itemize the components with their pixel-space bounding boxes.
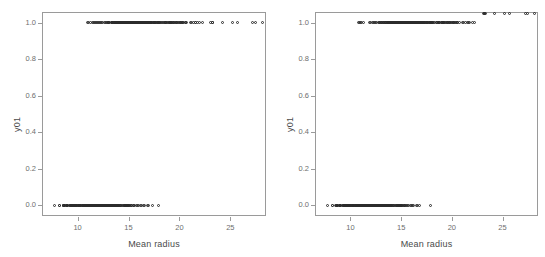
- y-tick-label: 0.0: [8, 200, 36, 209]
- x-tick-label: 20: [165, 223, 193, 232]
- data-point: [331, 204, 334, 207]
- data-point: [326, 204, 329, 207]
- data-point: [185, 21, 188, 24]
- data-point: [151, 204, 154, 207]
- x-tick-mark: [401, 217, 402, 221]
- x-tick-mark: [179, 217, 180, 221]
- data-point: [418, 204, 421, 207]
- x-tick-mark: [350, 217, 351, 221]
- x-tick-label: 10: [336, 223, 364, 232]
- x-tick-mark: [503, 217, 504, 221]
- data-point: [236, 21, 239, 24]
- y-tick-label: 1.0: [8, 18, 36, 27]
- data-point: [58, 204, 61, 207]
- data-point: [493, 12, 496, 15]
- plot-area-left: [42, 12, 266, 216]
- data-point: [526, 12, 529, 15]
- figure-root: y01 0.00.20.40.60.81.0 10152025 Mean rad…: [0, 0, 545, 257]
- plot-area-right: [315, 12, 538, 216]
- data-point: [458, 21, 461, 24]
- x-tick-mark: [129, 217, 130, 221]
- data-point: [473, 21, 476, 24]
- data-point: [201, 21, 204, 24]
- y-tick-label: 0.8: [8, 54, 36, 63]
- x-tick-label: 10: [64, 223, 92, 232]
- data-point: [231, 21, 234, 24]
- x-axis-label-right: Mean radius: [315, 239, 538, 249]
- y-tick-label: 1.0: [281, 18, 309, 27]
- data-point: [484, 12, 487, 15]
- x-tick-mark: [230, 217, 231, 221]
- x-tick-label: 25: [489, 223, 517, 232]
- data-point: [429, 204, 432, 207]
- x-tick-label: 15: [115, 223, 143, 232]
- y-tick-label: 0.8: [281, 54, 309, 63]
- data-point: [221, 21, 224, 24]
- y-tick-label: 0.4: [8, 127, 36, 136]
- scatter-panel-right: y01 0.00.20.40.60.81.0 10152025 Mean rad…: [273, 0, 545, 257]
- x-tick-label: 15: [387, 223, 415, 232]
- x-tick-mark: [78, 217, 79, 221]
- data-point: [362, 21, 365, 24]
- x-axis-label-left: Mean radius: [42, 239, 266, 249]
- scatter-panel-left: y01 0.00.20.40.60.81.0 10152025 Mean rad…: [0, 0, 272, 257]
- data-point: [503, 12, 506, 15]
- x-tick-mark: [452, 217, 453, 221]
- data-point: [157, 204, 160, 207]
- y-tick-label: 0.2: [281, 164, 309, 173]
- y-tick-label: 0.6: [281, 91, 309, 100]
- data-point: [508, 12, 511, 15]
- y-tick-label: 0.6: [8, 91, 36, 100]
- data-point: [211, 21, 214, 24]
- x-tick-label: 25: [216, 223, 244, 232]
- data-point: [261, 21, 264, 24]
- y-tick-label: 0.2: [8, 164, 36, 173]
- data-point: [147, 204, 150, 207]
- data-point: [533, 12, 536, 15]
- data-point: [53, 204, 56, 207]
- y-tick-label: 0.4: [281, 127, 309, 136]
- y-tick-label: 0.0: [281, 200, 309, 209]
- x-tick-label: 20: [438, 223, 466, 232]
- data-point: [254, 21, 257, 24]
